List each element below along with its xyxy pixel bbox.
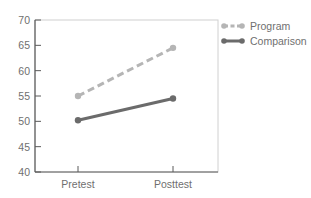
chart: 40455055606570 PretestPosttest Program C…	[0, 0, 311, 198]
x-tick-label: Pretest	[61, 178, 94, 190]
plot-frame	[35, 20, 218, 172]
series-program	[75, 45, 176, 100]
y-tick-label: 40	[18, 166, 30, 178]
y-tick-label: 60	[18, 65, 30, 77]
series-line	[78, 99, 173, 121]
marker-icon	[221, 23, 227, 29]
data-point	[170, 45, 176, 51]
x-ticks: PretestPosttest	[61, 166, 192, 190]
y-tick-label: 45	[18, 141, 30, 153]
y-tick-label: 50	[18, 115, 30, 127]
x-tick-label: Posttest	[154, 178, 192, 190]
y-tick-label: 70	[18, 14, 30, 26]
data-point	[170, 95, 176, 101]
marker-icon	[239, 38, 245, 44]
data-point	[75, 117, 81, 123]
legend-item-program: Program	[221, 20, 290, 32]
legend-item-comparison: Comparison	[221, 35, 307, 47]
y-ticks: 40455055606570	[18, 14, 41, 178]
marker-icon	[239, 23, 245, 29]
legend-label: Program	[250, 20, 291, 32]
series-group	[75, 45, 176, 124]
data-point	[75, 93, 81, 99]
legend-label: Comparison	[250, 35, 307, 47]
series-comparison	[75, 95, 176, 123]
legend: Program Comparison	[221, 20, 307, 47]
y-tick-label: 55	[18, 90, 30, 102]
marker-icon	[221, 38, 227, 44]
y-tick-label: 65	[18, 39, 30, 51]
series-line	[78, 48, 173, 96]
